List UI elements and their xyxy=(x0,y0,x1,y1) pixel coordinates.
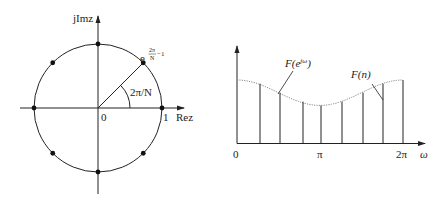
origin-label: 0 xyxy=(101,111,107,123)
tick-label-0: 0 xyxy=(233,148,239,160)
sample-point xyxy=(50,151,55,156)
x-axis-label: ω xyxy=(420,148,428,160)
unit-label: 1 xyxy=(163,111,169,123)
angle-arc xyxy=(121,85,130,108)
curve-label-leader xyxy=(278,71,293,94)
y-axis-label: jImz xyxy=(72,12,93,24)
sample-point xyxy=(32,106,37,111)
spectrum-plot: F(ejω) F(n) 0 π 2π ω xyxy=(233,46,428,160)
sample-point xyxy=(141,151,146,156)
angle-label: 2π/N xyxy=(130,86,152,98)
x-axis-label: Rez xyxy=(176,111,193,123)
tick-label-2pi: 2π xyxy=(396,148,408,160)
figure: jImz Rez 0 1 2π/N e 2π N −1 F(ejω) F(n) … xyxy=(0,0,439,202)
tick-label-pi: π xyxy=(317,148,323,160)
point-label-exp-den: N xyxy=(150,55,155,61)
sample-point xyxy=(96,170,101,175)
point-label-base: e xyxy=(140,52,145,64)
samples-label-leader xyxy=(372,84,383,100)
curve-label: F(ejω) xyxy=(284,57,311,70)
point-label-exp-suffix: −1 xyxy=(157,50,165,58)
sample-point xyxy=(50,60,55,65)
sample-point xyxy=(96,42,101,47)
figure-canvas: jImz Rez 0 1 2π/N e 2π N −1 F(ejω) F(n) … xyxy=(0,0,439,202)
sample-point xyxy=(160,106,165,111)
unit-circle-diagram: jImz Rez 0 1 2π/N e 2π N −1 xyxy=(20,12,193,194)
sample-stems xyxy=(260,80,403,144)
point-label-exp-num: 2π xyxy=(149,47,155,53)
samples-label: F(n) xyxy=(350,68,371,81)
